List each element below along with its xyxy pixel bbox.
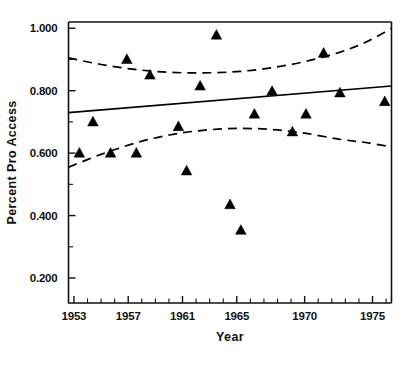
x-axis-title: Year: [216, 330, 244, 344]
data-point-marker: [131, 148, 142, 158]
y-axis-title: Percent Pro Access: [5, 100, 19, 224]
data-point-marker: [211, 30, 222, 40]
x-tick-label: 1961: [170, 310, 196, 322]
x-tick-label: 1957: [116, 310, 141, 322]
series-regression-fit: [69, 86, 392, 113]
series-upper-confidence-band: [69, 28, 392, 73]
data-point-marker: [301, 109, 312, 119]
x-tick-label: 1965: [224, 310, 250, 322]
data-point-marker: [173, 121, 184, 131]
x-tick-label: 1953: [62, 310, 87, 322]
axis-frame-left-bottom: [69, 22, 392, 303]
data-point-marker: [225, 199, 236, 209]
x-tick-label: 1975: [360, 310, 386, 322]
data-point-marker: [267, 86, 278, 96]
chart-figure: 0.2000.4000.6000.8001.000195319571961196…: [0, 0, 417, 366]
data-point-marker: [88, 116, 99, 126]
data-point-marker: [318, 48, 329, 58]
series-lower-confidence-band: [69, 128, 392, 167]
y-tick-label: 0.400: [30, 210, 58, 222]
data-point-marker: [122, 54, 133, 64]
data-point-marker: [249, 109, 260, 119]
data-point-marker: [379, 96, 390, 106]
data-point-marker: [335, 87, 346, 97]
y-tick-label: 0.200: [30, 272, 58, 284]
data-point-marker: [74, 148, 85, 158]
y-tick-label: 0.600: [30, 147, 58, 159]
data-point-marker: [236, 225, 247, 235]
y-tick-label: 0.800: [30, 85, 58, 97]
x-tick-label: 1970: [292, 310, 317, 322]
data-point-marker: [195, 80, 206, 90]
y-tick-label: 1.000: [30, 22, 58, 34]
data-point-marker: [181, 165, 192, 175]
scatter-plot: 0.2000.4000.6000.8001.000195319571961196…: [0, 0, 417, 366]
